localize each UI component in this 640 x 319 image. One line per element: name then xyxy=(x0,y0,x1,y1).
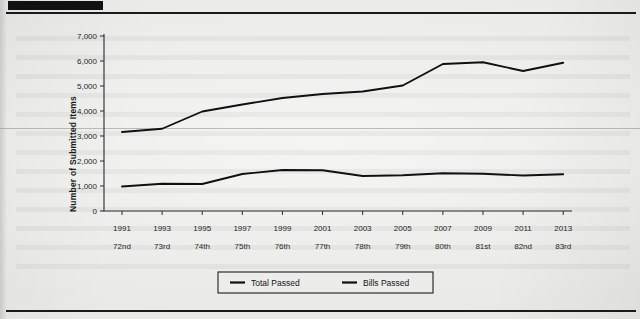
y-tick-label: 0 xyxy=(93,207,98,216)
y-tick-label: 5,000 xyxy=(77,82,98,91)
x-tick-label-legislature: 82nd xyxy=(514,242,532,251)
x-tick-label-legislature: 80th xyxy=(435,242,451,251)
y-tick-label: 7,000 xyxy=(77,32,98,41)
x-axis-tick-marks xyxy=(122,211,563,215)
x-tick-label-legislature: 78th xyxy=(355,242,371,251)
x-axis-legislature-labels: 72nd73rd74th75th76th77th78th79th80th81st… xyxy=(113,242,571,251)
x-tick-label-legislature: 76th xyxy=(275,242,291,251)
x-axis-year-labels: 1991199319951997199920012003200520072009… xyxy=(113,224,573,233)
x-tick-label-year: 1991 xyxy=(113,224,131,233)
x-tick-label-legislature: 79th xyxy=(395,242,411,251)
y-tick-label: 3,000 xyxy=(77,132,98,141)
y-tick-label: 4,000 xyxy=(77,107,98,116)
y-tick-label: 1,000 xyxy=(77,182,98,191)
y-tick-label: 2,000 xyxy=(77,157,98,166)
x-tick-label-year: 2013 xyxy=(554,224,572,233)
footer-rule xyxy=(6,310,636,312)
x-tick-label-year: 1995 xyxy=(193,224,211,233)
y-axis-tick-labels: 01,0002,0003,0004,0005,0006,0007,000 xyxy=(77,32,98,216)
x-tick-label-year: 2003 xyxy=(354,224,372,233)
series-line-total-passed xyxy=(122,62,563,132)
y-tick-label: 6,000 xyxy=(77,57,98,66)
series-line-bills-passed xyxy=(122,170,563,187)
line-chart: Number of Submitted Items 01,0002,0003,0… xyxy=(0,14,640,304)
chart-legend: Total PassedBills Passed xyxy=(218,272,433,293)
series-group xyxy=(122,62,563,186)
x-tick-label-legislature: 73rd xyxy=(154,242,170,251)
x-tick-label-year: 2005 xyxy=(394,224,412,233)
y-axis-tick-marks xyxy=(100,36,104,211)
x-tick-label-legislature: 83rd xyxy=(555,242,571,251)
legend-label-bills-passed: Bills Passed xyxy=(363,278,410,288)
x-tick-label-year: 1993 xyxy=(153,224,171,233)
x-tick-label-year: 1999 xyxy=(274,224,292,233)
x-tick-label-legislature: 81st xyxy=(475,242,491,251)
x-tick-label-year: 2001 xyxy=(314,224,332,233)
x-tick-label-legislature: 77th xyxy=(315,242,331,251)
x-tick-label-legislature: 72nd xyxy=(113,242,131,251)
x-tick-label-legislature: 75th xyxy=(235,242,251,251)
x-tick-label-year: 1997 xyxy=(233,224,251,233)
chart-canvas: Number of Submitted Items 01,0002,0003,0… xyxy=(0,14,640,304)
x-tick-label-legislature: 74th xyxy=(194,242,210,251)
legend-label-total-passed: Total Passed xyxy=(251,278,300,288)
x-tick-label-year: 2011 xyxy=(514,224,532,233)
redaction-bar xyxy=(8,1,103,10)
x-tick-label-year: 2009 xyxy=(474,224,492,233)
x-tick-label-year: 2007 xyxy=(434,224,452,233)
scanned-page: Number of Submitted Items 01,0002,0003,0… xyxy=(0,0,640,319)
